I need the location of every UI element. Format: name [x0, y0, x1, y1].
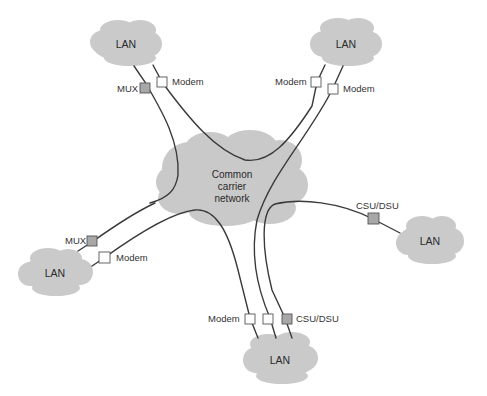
- modem-label-top-right-a: Modem: [275, 77, 307, 87]
- lan-label-bottom: LAN: [270, 355, 290, 366]
- mux-label-top-left: MUX: [117, 84, 138, 94]
- modem-label-top-left: Modem: [172, 77, 204, 87]
- lan-label-left: LAN: [45, 268, 65, 279]
- modem-label-bottom: Modem: [208, 314, 240, 324]
- center-label-line1: Common: [192, 169, 272, 181]
- lan-label-top-left: LAN: [116, 39, 136, 50]
- mux-device-left: [87, 236, 97, 246]
- modem-label-top-right-b: Modem: [343, 84, 375, 94]
- common-carrier-network-label: Common carrier network: [192, 169, 272, 205]
- csu-dsu-device-right: [368, 213, 379, 224]
- center-label-line3: network: [192, 193, 272, 205]
- lan-label-right: LAN: [420, 236, 440, 247]
- modem-device-top-left: [157, 77, 167, 87]
- mux-device-top-left: [140, 83, 150, 93]
- modem-device-top-right-b: [328, 84, 338, 94]
- lan-label-top-right: LAN: [336, 39, 356, 50]
- modem-device-left: [99, 252, 110, 263]
- modem-device-bottom-b: [263, 314, 273, 324]
- csu-dsu-label-right: CSU/DSU: [356, 201, 399, 211]
- modem-label-left: Modem: [116, 253, 148, 263]
- modem-device-bottom-a: [245, 314, 255, 324]
- csu-dsu-device-bottom: [282, 314, 292, 324]
- center-label-line2: carrier: [192, 181, 272, 193]
- csu-dsu-label-bottom: CSU/DSU: [296, 314, 339, 324]
- mux-label-left: MUX: [65, 236, 86, 246]
- modem-device-top-right-a: [311, 77, 321, 87]
